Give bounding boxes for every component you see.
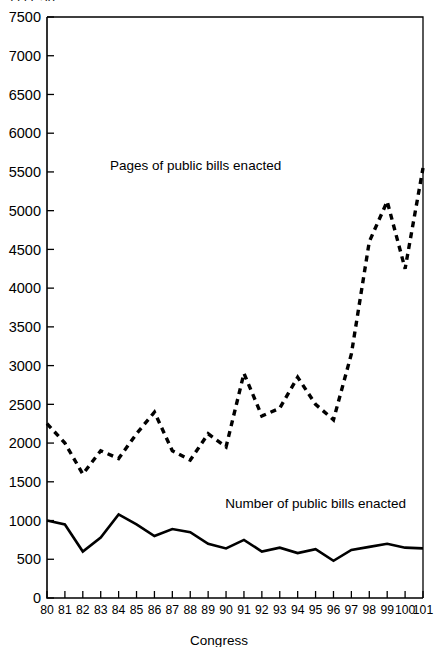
x-tick-label: 95: [309, 603, 323, 617]
x-tick-label: 93: [273, 603, 287, 617]
x-tick-label: 83: [94, 603, 108, 617]
x-tick-label: 87: [166, 603, 180, 617]
x-tick-label: 84: [112, 603, 126, 617]
y-tick-label: 4000: [9, 280, 41, 296]
x-tick-label: 94: [291, 603, 305, 617]
clipped-figure-caption: 1111 50: [8, 0, 56, 1]
x-tick-label: 80: [40, 603, 54, 617]
series-annotations: Pages of public bills enactedNumber of p…: [110, 158, 406, 512]
x-axis-ticks: [47, 591, 423, 598]
x-tick-label: 88: [183, 603, 197, 617]
x-axis-title: Congress: [190, 633, 248, 647]
x-tick-label: 91: [237, 603, 251, 617]
x-axis-tick-labels: 8081828384858687888990919293949596979899…: [40, 603, 433, 617]
y-tick-label: 2500: [9, 397, 41, 413]
y-tick-label: 7500: [9, 9, 41, 25]
y-tick-label: 1000: [9, 513, 41, 529]
x-tick-label: 86: [148, 603, 162, 617]
x-tick-label: 92: [255, 603, 269, 617]
x-tick-label: 90: [219, 603, 233, 617]
series-number-of-public-bills-enacted: [47, 514, 423, 560]
y-tick-label: 500: [17, 551, 41, 567]
y-tick-label: 3000: [9, 358, 41, 374]
y-tick-label: 6000: [9, 125, 41, 141]
y-tick-label: 4500: [9, 242, 41, 258]
line-chart: 0500100015002000250030003500400045005000…: [0, 0, 438, 647]
y-axis-ticks: [47, 17, 54, 598]
y-tick-label: 1500: [9, 474, 41, 490]
y-tick-label: 2000: [9, 435, 41, 451]
series-annotation-label: Pages of public bills enacted: [110, 158, 281, 173]
y-tick-label: 3500: [9, 319, 41, 335]
x-tick-label: 82: [76, 603, 90, 617]
x-tick-label: 97: [345, 603, 359, 617]
series-pages-of-public-bills-enacted: [47, 168, 423, 474]
y-tick-label: 6500: [9, 87, 41, 103]
y-tick-label: 5500: [9, 164, 41, 180]
x-tick-label: 98: [363, 603, 377, 617]
x-tick-label: 81: [58, 603, 72, 617]
x-tick-label: 101: [413, 603, 434, 617]
y-tick-label: 5000: [9, 203, 41, 219]
y-axis-tick-labels: 0500100015002000250030003500400045005000…: [9, 9, 41, 606]
y-tick-label: 7000: [9, 48, 41, 64]
x-tick-label: 99: [380, 603, 394, 617]
x-tick-label: 96: [327, 603, 341, 617]
figure-container: 1111 50 05001000150020002500300035004000…: [0, 0, 438, 647]
x-tick-label: 89: [201, 603, 215, 617]
x-tick-label: 85: [130, 603, 144, 617]
series-annotation-label: Number of public bills enacted: [225, 496, 406, 511]
